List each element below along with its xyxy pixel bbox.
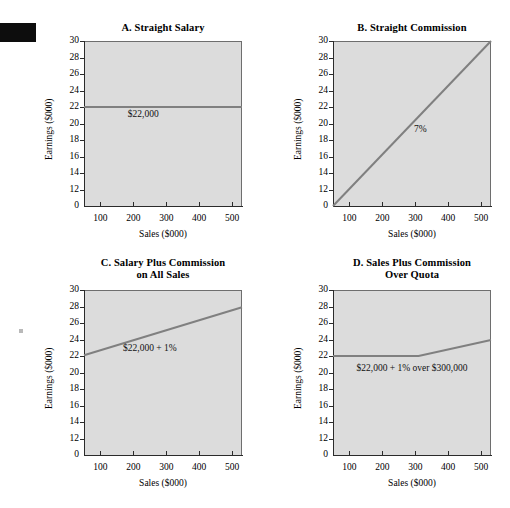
y-tick-mark bbox=[80, 157, 84, 158]
y-tick-mark bbox=[329, 140, 333, 141]
x-tick-mark bbox=[349, 202, 350, 206]
x-tick-label: 100 bbox=[93, 456, 107, 473]
y-axis-line bbox=[333, 290, 334, 456]
y-tick-label: 12 bbox=[50, 434, 84, 444]
y-tick-mark bbox=[80, 107, 84, 108]
y-tick-label: 28 bbox=[50, 53, 84, 63]
x-tick-label: 300 bbox=[408, 207, 422, 224]
y-axis-line bbox=[84, 41, 85, 207]
y-tick-label: 24 bbox=[50, 86, 84, 96]
x-axis-line bbox=[333, 206, 492, 207]
y-tick-label: 12 bbox=[299, 185, 333, 195]
y-tick-mark bbox=[80, 422, 84, 423]
y-tick-label: 0 bbox=[50, 450, 84, 460]
x-tick-label: 400 bbox=[192, 207, 206, 224]
panel-title-b: B. Straight Commission bbox=[263, 22, 510, 34]
y-tick-label: 14 bbox=[299, 417, 333, 427]
series-layer bbox=[0, 0, 510, 508]
y-tick-mark bbox=[80, 91, 84, 92]
y-tick-mark bbox=[329, 190, 333, 191]
y-tick-mark bbox=[329, 41, 333, 42]
y-tick-mark bbox=[329, 373, 333, 374]
y-tick-label: 16 bbox=[50, 152, 84, 162]
x-tick-mark bbox=[382, 451, 383, 455]
plot-area-b bbox=[333, 41, 491, 206]
black-rectangle-artifact bbox=[0, 23, 36, 42]
y-tick-label: 30 bbox=[299, 36, 333, 46]
x-tick-mark bbox=[349, 451, 350, 455]
panel-title-line-1: C. Salary Plus Commission bbox=[14, 257, 312, 269]
x-tick-label: 400 bbox=[441, 207, 455, 224]
y-tick-label: 18 bbox=[50, 135, 84, 145]
x-axis-line bbox=[333, 455, 492, 456]
y-tick-mark bbox=[329, 74, 333, 75]
y-tick-label: 12 bbox=[299, 434, 333, 444]
y-tick-label: 16 bbox=[50, 401, 84, 411]
x-axis-line bbox=[84, 455, 243, 456]
x-tick-mark bbox=[481, 451, 482, 455]
x-tick-label: 300 bbox=[408, 456, 422, 473]
y-tick-mark bbox=[329, 340, 333, 341]
y-tick-label: 18 bbox=[299, 384, 333, 394]
y-axis-title: Earnings ($000) bbox=[44, 98, 54, 159]
x-axis-title: Sales ($000) bbox=[333, 478, 491, 488]
x-tick-label: 200 bbox=[126, 456, 140, 473]
plot-area-a bbox=[84, 41, 242, 206]
panel-title-line-2: Over Quota bbox=[263, 269, 510, 281]
panel-title-d: D. Sales Plus CommissionOver Quota bbox=[263, 257, 510, 280]
x-tick-mark bbox=[133, 202, 134, 206]
y-tick-label: 22 bbox=[50, 102, 84, 112]
y-tick-label: 16 bbox=[299, 152, 333, 162]
y-axis-line bbox=[84, 290, 85, 456]
y-tick-label: 14 bbox=[299, 168, 333, 178]
plot-area-d bbox=[333, 290, 491, 455]
panel-title-c: C. Salary Plus Commissionon All Sales bbox=[14, 257, 312, 280]
series-line bbox=[333, 41, 491, 206]
y-tick-label: 20 bbox=[299, 119, 333, 129]
y-tick-label: 22 bbox=[299, 102, 333, 112]
y-tick-mark bbox=[329, 389, 333, 390]
y-tick-label: 30 bbox=[50, 36, 84, 46]
chart-panel-c: C. Salary Plus Commissionon All Sales302… bbox=[0, 0, 510, 508]
y-tick-label: 28 bbox=[50, 302, 84, 312]
y-tick-mark bbox=[80, 41, 84, 42]
y-tick-mark bbox=[329, 406, 333, 407]
y-tick-mark bbox=[329, 323, 333, 324]
x-tick-label: 300 bbox=[159, 207, 173, 224]
y-tick-label: 28 bbox=[299, 302, 333, 312]
y-tick-label: 0 bbox=[299, 450, 333, 460]
y-tick-mark bbox=[329, 173, 333, 174]
x-tick-label: 200 bbox=[126, 207, 140, 224]
y-tick-mark bbox=[80, 190, 84, 191]
y-tick-mark bbox=[80, 406, 84, 407]
y-tick-mark bbox=[80, 340, 84, 341]
panel-title-line-2: on All Sales bbox=[14, 269, 312, 281]
chart-panel-d: D. Sales Plus CommissionOver Quota302826… bbox=[0, 0, 510, 508]
x-tick-label: 500 bbox=[225, 456, 239, 473]
panel-title-a: A. Straight Salary bbox=[14, 22, 312, 34]
y-tick-label: 24 bbox=[50, 335, 84, 345]
chart-panel-a: A. Straight Salary3028262422201816141201… bbox=[0, 0, 510, 508]
x-tick-label: 400 bbox=[441, 456, 455, 473]
y-tick-mark bbox=[80, 290, 84, 291]
y-tick-mark bbox=[329, 107, 333, 108]
y-tick-label: 14 bbox=[50, 417, 84, 427]
x-tick-mark bbox=[100, 451, 101, 455]
y-tick-mark bbox=[80, 389, 84, 390]
x-tick-mark bbox=[166, 202, 167, 206]
y-tick-mark bbox=[80, 356, 84, 357]
y-tick-label: 26 bbox=[299, 69, 333, 79]
y-tick-mark bbox=[80, 439, 84, 440]
y-tick-label: 16 bbox=[299, 401, 333, 411]
x-tick-mark bbox=[415, 451, 416, 455]
x-tick-label: 100 bbox=[342, 207, 356, 224]
series-layer bbox=[0, 0, 510, 508]
grey-speck-artifact bbox=[19, 329, 23, 333]
series-line bbox=[84, 307, 242, 355]
y-tick-mark bbox=[80, 124, 84, 125]
x-tick-label: 200 bbox=[375, 456, 389, 473]
y-tick-label: 14 bbox=[50, 168, 84, 178]
y-tick-label: 0 bbox=[50, 201, 84, 211]
x-tick-mark bbox=[166, 451, 167, 455]
x-tick-mark bbox=[448, 202, 449, 206]
